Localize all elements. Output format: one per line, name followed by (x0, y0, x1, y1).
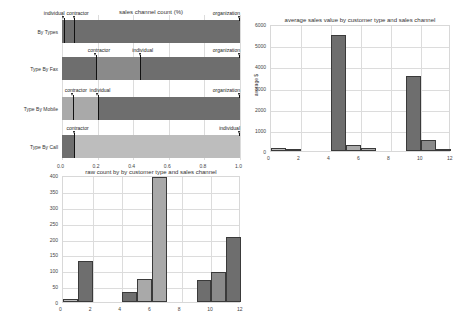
gridline (271, 90, 449, 91)
y-tick-label: 50 (38, 284, 58, 290)
bar (331, 35, 346, 151)
y-tick-label: 0 (38, 300, 58, 306)
x-tick-label: 2 (89, 306, 92, 312)
gridline (271, 132, 449, 133)
gridline (63, 209, 239, 210)
gridline (63, 256, 239, 257)
raw-count-chart: raw count by by customer type and sales … (0, 0, 250, 327)
y-tick-label: 350 (38, 189, 58, 195)
gridline (63, 241, 239, 242)
bar (137, 279, 152, 302)
bar (122, 292, 137, 302)
x-tick-label: 10 (417, 155, 423, 161)
plot-area (62, 176, 240, 303)
gridline (271, 47, 449, 48)
bar (152, 177, 167, 302)
x-tick-label: 12 (237, 306, 243, 312)
gridline (182, 177, 183, 302)
gridline (63, 225, 239, 226)
x-tick-label: 8 (387, 155, 390, 161)
chart-title: average sales value by customer type and… (270, 17, 450, 23)
x-tick-label: 4 (118, 306, 121, 312)
x-tick-label: 12 (447, 155, 453, 161)
gridline (271, 111, 449, 112)
bar (197, 280, 212, 302)
bar (346, 145, 361, 151)
x-tick-label: 0 (267, 155, 270, 161)
chart-title: raw count by by customer type and sales … (62, 169, 240, 175)
x-tick-label: 4 (327, 155, 330, 161)
bar (421, 140, 436, 151)
y-tick-label: 150 (38, 252, 58, 258)
bar (406, 76, 421, 151)
bar (361, 148, 376, 151)
gridline (63, 193, 239, 194)
x-tick-label: 0 (59, 306, 62, 312)
bar (63, 299, 78, 302)
bar (286, 149, 301, 151)
bar (271, 148, 286, 151)
x-tick-label: 6 (148, 306, 151, 312)
bar (211, 272, 226, 302)
bar (436, 149, 451, 151)
x-tick-label: 2 (297, 155, 300, 161)
gridline (122, 177, 123, 302)
y-tick-label: 400 (38, 173, 58, 179)
x-tick-label: 8 (178, 306, 181, 312)
y-tick-label: 300 (38, 205, 58, 211)
bar (78, 261, 93, 302)
y-tick-label: 100 (38, 268, 58, 274)
x-tick-label: 10 (207, 306, 213, 312)
bar (226, 237, 241, 302)
plot-area (270, 25, 450, 152)
y-tick-label: 200 (38, 237, 58, 243)
x-tick-label: 6 (357, 155, 360, 161)
gridline (93, 177, 94, 302)
gridline (271, 68, 449, 69)
y-tick-label: 250 (38, 221, 58, 227)
